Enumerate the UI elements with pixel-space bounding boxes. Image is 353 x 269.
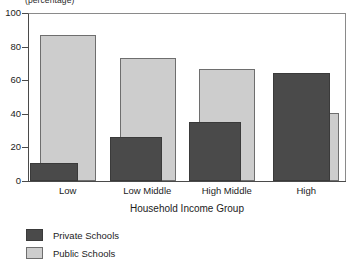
y-axis-tick-label: 40: [0, 109, 21, 119]
bar-private-schools: [30, 163, 78, 181]
bar-public-schools: [40, 35, 96, 181]
bars-layer: [28, 13, 346, 181]
bar-group: [187, 13, 267, 181]
y-axis-tick: [22, 181, 28, 182]
x-axis-title: Household Income Group: [28, 203, 346, 214]
y-axis-tick-label: 100: [0, 8, 21, 18]
legend-item: Private Schools: [26, 227, 119, 243]
legend-swatch-public: [26, 247, 43, 259]
y-axis-tick-label: 80: [0, 42, 21, 52]
unit-label: (percentage): [25, 0, 74, 5]
y-axis-tick-label: 0: [0, 176, 21, 186]
bar-private-schools: [189, 122, 241, 181]
legend-label: Private Schools: [53, 230, 119, 241]
y-axis-tick-label: 20: [0, 142, 21, 152]
legend-label: Public Schools: [53, 248, 115, 259]
y-axis-tick-label: 60: [0, 75, 21, 85]
bar-group: [28, 13, 108, 181]
x-axis-label: Low: [28, 185, 108, 197]
bar-private-schools: [273, 73, 330, 181]
x-axis-label: Low Middle: [108, 185, 188, 197]
x-axis-label: High: [267, 185, 347, 197]
legend-swatch-private: [26, 229, 43, 241]
bar-private-schools: [110, 137, 162, 181]
chart-legend: Private SchoolsPublic Schools: [26, 227, 119, 263]
bar-group: [267, 13, 347, 181]
x-axis-line: [28, 181, 346, 182]
bar-group: [108, 13, 188, 181]
bar-chart: (percentage) 020406080100 LowLow MiddleH…: [0, 0, 353, 269]
legend-item: Public Schools: [26, 245, 119, 261]
x-axis-label: High Middle: [187, 185, 267, 197]
